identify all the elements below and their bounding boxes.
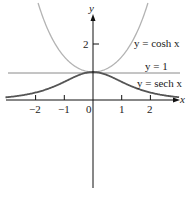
y-axis-arrow-icon	[91, 14, 96, 21]
annotation-y1: y = 1	[145, 60, 168, 72]
annotation-cosh: y = cosh x	[134, 37, 180, 49]
x-axis-arrow-icon	[173, 98, 180, 103]
x-tick-label-1: 1	[119, 103, 125, 115]
x-tick-label-m2: −2	[29, 103, 41, 115]
y-tick-label-2: 2	[83, 38, 89, 50]
y-axis-label: y	[88, 2, 94, 14]
x-tick-label-0: 0	[86, 103, 92, 115]
x-axis-label: x	[179, 93, 185, 105]
x-tick-label-2: 2	[147, 103, 153, 115]
chart: −2 −1 0 1 2 2 x y y = cosh x y = 1 y = s…	[0, 0, 186, 198]
annotation-sech: y = sech x	[137, 77, 182, 89]
x-tick-label-m1: −1	[58, 103, 70, 115]
